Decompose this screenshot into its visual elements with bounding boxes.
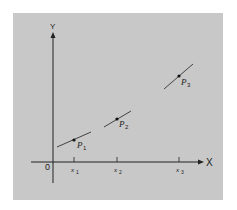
tick-x2: x 2: [113, 157, 122, 175]
x-axis-label: X: [206, 157, 213, 168]
svg-text:P: P: [76, 140, 83, 150]
svg-text:3: 3: [181, 169, 184, 175]
svg-text:x: x: [113, 166, 118, 174]
tick-x1: x 1: [70, 157, 79, 175]
y-axis: Y: [50, 22, 56, 183]
svg-text:1: 1: [83, 145, 87, 151]
svg-text:x: x: [175, 166, 180, 174]
svg-text:x: x: [70, 166, 75, 174]
point-p1: P 1: [57, 132, 91, 151]
svg-text:3: 3: [187, 82, 191, 88]
y-axis-arrow-icon: [51, 32, 56, 38]
svg-text:2: 2: [125, 124, 129, 130]
y-axis-label: Y: [50, 22, 56, 31]
x-axis: X: [31, 157, 213, 168]
point-p2: P 2: [104, 111, 131, 130]
coordinate-diagram: X Y 0 x 1 x 2 x 3 P 1 P 2 P: [0, 0, 237, 210]
svg-text:P: P: [180, 77, 187, 87]
tick-x3: x 3: [175, 157, 184, 175]
x-axis-arrow-icon: [198, 160, 204, 165]
origin-label: 0: [45, 162, 50, 172]
point-p3: P 3: [164, 64, 193, 89]
svg-text:1: 1: [76, 169, 79, 175]
svg-text:2: 2: [119, 169, 122, 175]
svg-text:P: P: [118, 119, 125, 129]
